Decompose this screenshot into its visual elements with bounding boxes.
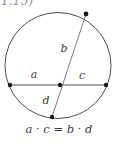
chord-intersection-point [58, 83, 62, 87]
chord-endpoint-bottom-point [50, 115, 54, 119]
chord-endpoint-left-point [8, 83, 12, 87]
segment-label-b: b [60, 42, 67, 55]
chord-endpoint-right-point [104, 83, 108, 87]
intersecting-chords-diagram: a b c d [0, 0, 118, 126]
segment-label-c: c [79, 69, 85, 82]
segment-label-d: d [42, 94, 49, 107]
circle-shape [5, 13, 111, 119]
chord-endpoint-top-point [84, 12, 89, 17]
formula-caption: a · c = b · d [0, 122, 118, 136]
geometry-figure: 1.15) a b c d a · c = b · d [0, 0, 118, 142]
diagonal-chord [52, 14, 86, 117]
segment-label-a: a [31, 68, 38, 81]
